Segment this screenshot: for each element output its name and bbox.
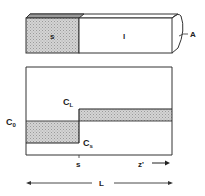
area-leader-line <box>179 34 188 36</box>
initial-conc-label: C0 <box>6 117 17 128</box>
liquid-zone <box>79 18 172 53</box>
diagram-canvas: s l A C0 CL Cs s z' L <box>0 0 205 196</box>
liquid-label: l <box>123 32 125 41</box>
liquid-conc-region <box>79 109 172 121</box>
solid-label: s <box>50 32 55 41</box>
left-arrow-icon <box>26 181 31 185</box>
liquid-conc-label: CL <box>63 97 74 108</box>
right-arrow-icon <box>168 181 173 185</box>
interface-position-label: s <box>76 160 81 169</box>
solid-top-face <box>26 14 84 18</box>
length-label: L <box>99 179 104 188</box>
rod-end-cap <box>172 14 183 53</box>
area-label: A <box>190 30 196 39</box>
axis-arrow-icon <box>152 161 170 166</box>
concentration-plot <box>26 67 172 158</box>
solid-conc-label: Cs <box>83 138 94 149</box>
solid-conc-region <box>26 121 79 143</box>
axis-label: z' <box>138 160 144 169</box>
